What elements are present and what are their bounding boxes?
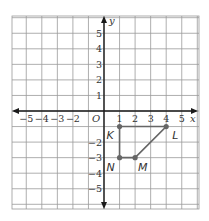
x-tick-label: −5 bbox=[19, 113, 33, 124]
y-tick-label: 2 bbox=[96, 74, 102, 85]
vertex-point-m bbox=[133, 155, 138, 160]
vertex-point-n bbox=[117, 155, 122, 160]
x-tick-label: 3 bbox=[148, 113, 154, 124]
y-tick-label: 5 bbox=[96, 28, 102, 39]
y-axis-up-arrow-icon bbox=[101, 16, 107, 23]
vertex-point-k bbox=[117, 124, 122, 129]
y-tick-label: −4 bbox=[88, 168, 102, 179]
quadrilateral-klmn: KLMN bbox=[107, 124, 179, 174]
coordinate-plane: −5−4−3−21234554321−2−3−4−5 x y O KLMN bbox=[0, 0, 209, 221]
x-tick-label: 4 bbox=[163, 113, 169, 124]
x-tick-label: 2 bbox=[132, 113, 138, 124]
x-tick-label: 5 bbox=[179, 113, 185, 124]
y-tick-label: 1 bbox=[96, 90, 102, 101]
y-tick-label: 4 bbox=[96, 43, 102, 54]
x-tick-label: −3 bbox=[50, 113, 64, 124]
y-tick-label: −2 bbox=[88, 137, 102, 148]
x-tick-label: 1 bbox=[117, 113, 123, 124]
vertex-label-n: N bbox=[107, 161, 115, 174]
x-tick-label: −2 bbox=[66, 113, 80, 124]
y-tick-label: −5 bbox=[88, 183, 102, 194]
y-tick-label: −3 bbox=[88, 152, 102, 163]
vertex-point-l bbox=[164, 124, 169, 129]
y-axis-down-arrow-icon bbox=[101, 202, 107, 209]
origin-label: O bbox=[92, 113, 100, 124]
x-tick-label: −4 bbox=[35, 113, 49, 124]
y-tick-label: 3 bbox=[96, 59, 102, 70]
x-axis-label: x bbox=[190, 113, 196, 124]
vertex-label-l: L bbox=[172, 129, 178, 142]
x-axis-left-arrow-icon bbox=[12, 108, 19, 114]
y-axis-label: y bbox=[108, 15, 115, 26]
vertex-label-k: K bbox=[107, 129, 115, 142]
vertex-label-m: M bbox=[138, 161, 148, 174]
